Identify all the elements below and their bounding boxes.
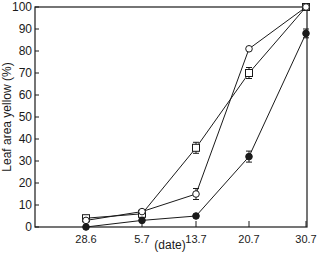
open-circle-marker xyxy=(246,46,253,53)
x-tick-label: 28.6 xyxy=(75,233,96,245)
y-tick-label: 60 xyxy=(19,88,33,102)
x-axis-ticks: 28.65.713.720.730.7 xyxy=(75,221,316,245)
square-marker xyxy=(246,70,253,77)
open-circle-marker xyxy=(83,217,90,224)
square-marker xyxy=(193,144,200,151)
open-circle-marker xyxy=(139,208,146,215)
open-circle-marker xyxy=(303,4,310,11)
x-tick-label: 5.7 xyxy=(134,233,149,245)
x-tick-label: 20.7 xyxy=(238,233,259,245)
y-axis-label: Leaf area yellow (%) xyxy=(0,62,14,171)
y-tick-label: 90 xyxy=(19,22,33,36)
y-tick-label: 70 xyxy=(19,66,33,80)
filled-circle-marker xyxy=(83,224,90,231)
series-line xyxy=(86,7,306,218)
series-circle-open xyxy=(83,4,310,224)
filled-circle-marker xyxy=(139,217,146,224)
x-tick-label: 30.7 xyxy=(295,233,316,245)
filled-circle-marker xyxy=(246,153,253,160)
y-tick-label: 20 xyxy=(19,176,33,190)
filled-circle-marker xyxy=(193,213,200,220)
x-axis-label: (date) xyxy=(154,238,185,252)
series-circle-filled xyxy=(83,29,310,230)
line-chart: 0102030405060708090100 28.65.713.720.730… xyxy=(0,0,317,255)
plot-frame xyxy=(35,7,307,227)
x-tick-label: 13.7 xyxy=(185,233,206,245)
y-tick-label: 30 xyxy=(19,154,33,168)
y-tick-label: 80 xyxy=(19,44,33,58)
y-tick-label: 40 xyxy=(19,132,33,146)
y-tick-label: 0 xyxy=(25,220,32,234)
y-tick-label: 50 xyxy=(19,110,33,124)
y-tick-label: 100 xyxy=(12,0,32,14)
data-series xyxy=(83,4,310,231)
y-tick-label: 10 xyxy=(19,198,33,212)
filled-circle-marker xyxy=(303,30,310,37)
open-circle-marker xyxy=(193,191,200,198)
axes xyxy=(35,7,307,227)
